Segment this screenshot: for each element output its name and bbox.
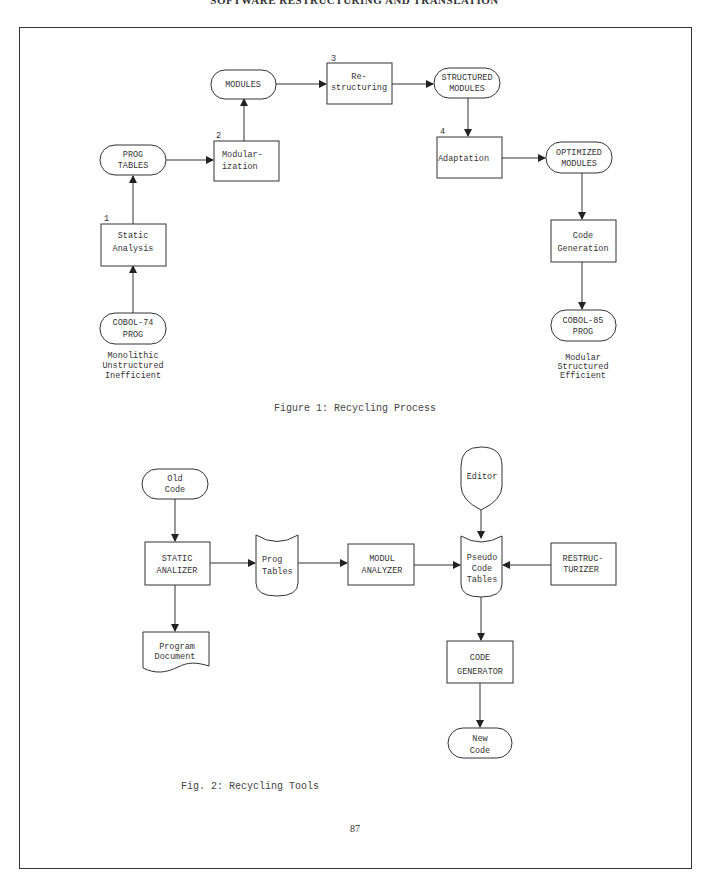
svg-text:Generation: Generation bbox=[557, 244, 608, 254]
svg-text:2: 2 bbox=[216, 131, 221, 141]
node-optimized-modules: OPTIMIZED MODULES bbox=[546, 142, 612, 173]
node-modules: MODULES bbox=[211, 70, 276, 99]
figure-1-caption: Figure 1: Recycling Process bbox=[274, 403, 436, 414]
note-right: Modular Structured Efficient bbox=[557, 353, 608, 381]
svg-text:Pseudo: Pseudo bbox=[467, 553, 498, 563]
svg-text:PROG: PROG bbox=[123, 330, 143, 340]
figures-canvas: MODULES 3 Re- structuring STRUCTURED MOD… bbox=[0, 0, 709, 872]
node-pseudo-code-tables: Pseudo Code Tables bbox=[461, 536, 502, 597]
node-restructurizer: RESTRUC- TURIZER bbox=[551, 543, 616, 585]
svg-text:New: New bbox=[472, 734, 488, 744]
svg-text:STATIC: STATIC bbox=[162, 554, 193, 564]
svg-text:Monolithic: Monolithic bbox=[107, 351, 158, 361]
svg-text:Code: Code bbox=[472, 564, 492, 574]
svg-text:MODUL: MODUL bbox=[369, 554, 395, 564]
figure-2-caption: Fig. 2: Recycling Tools bbox=[181, 781, 319, 792]
node-new-code: New Code bbox=[448, 728, 512, 758]
svg-text:Code: Code bbox=[165, 485, 185, 495]
figure-2: Old Code STATIC ANALIZER Program Documen… bbox=[142, 447, 616, 792]
node-modularization: 2 Modular- ization bbox=[214, 131, 279, 181]
svg-text:Analysis: Analysis bbox=[113, 244, 154, 254]
svg-text:Re-: Re- bbox=[351, 72, 366, 82]
node-restructuring: 3 Re- structuring bbox=[327, 54, 392, 104]
svg-text:PROG: PROG bbox=[123, 150, 143, 160]
svg-text:1: 1 bbox=[104, 214, 109, 224]
svg-text:MODULES: MODULES bbox=[225, 80, 261, 90]
svg-text:PROG: PROG bbox=[573, 327, 593, 337]
svg-text:Inefficient: Inefficient bbox=[105, 371, 161, 381]
node-prog-tables: PROG TABLES bbox=[100, 145, 166, 175]
svg-text:COBOL-85: COBOL-85 bbox=[563, 316, 604, 326]
node-structured-modules: STRUCTURED MODULES bbox=[434, 68, 500, 98]
node-cobol85-prog: COBOL-85 PROG bbox=[551, 310, 616, 341]
svg-text:Old: Old bbox=[167, 474, 182, 484]
svg-text:Unstructured: Unstructured bbox=[102, 361, 163, 371]
node-prog-tables-storage: Prog Tables bbox=[256, 535, 298, 596]
svg-text:OPTIMIZED: OPTIMIZED bbox=[556, 148, 602, 158]
svg-text:Tables: Tables bbox=[467, 575, 498, 585]
node-program-document: Program Document bbox=[143, 632, 209, 672]
svg-text:Modular-: Modular- bbox=[222, 150, 263, 160]
node-code-generator: CODE GENERATOR bbox=[447, 641, 513, 683]
svg-text:Efficient: Efficient bbox=[560, 371, 606, 381]
svg-text:COBOL-74: COBOL-74 bbox=[113, 318, 154, 328]
node-editor: Editor bbox=[461, 447, 502, 510]
svg-text:CODE: CODE bbox=[470, 653, 490, 663]
svg-text:Static: Static bbox=[118, 231, 149, 241]
svg-text:Editor: Editor bbox=[467, 472, 498, 482]
figure-1: MODULES 3 Re- structuring STRUCTURED MOD… bbox=[100, 54, 616, 414]
svg-text:Prog: Prog bbox=[262, 555, 282, 565]
page-number: 87 bbox=[350, 823, 360, 834]
svg-text:TURIZER: TURIZER bbox=[563, 565, 599, 575]
svg-text:Document: Document bbox=[155, 652, 196, 662]
svg-text:STRUCTURED: STRUCTURED bbox=[441, 73, 492, 83]
svg-text:ization: ization bbox=[222, 162, 258, 172]
svg-text:Tables: Tables bbox=[262, 567, 293, 577]
svg-text:Adaptation: Adaptation bbox=[438, 154, 489, 164]
node-cobol74-prog: COBOL-74 PROG bbox=[100, 313, 166, 344]
svg-text:GENERATOR: GENERATOR bbox=[457, 667, 503, 677]
svg-text:structuring: structuring bbox=[331, 83, 387, 93]
node-adaptation: 4 Adaptation bbox=[437, 127, 502, 178]
svg-text:4: 4 bbox=[440, 127, 445, 137]
svg-text:Program: Program bbox=[159, 642, 195, 652]
node-old-code: Old Code bbox=[142, 469, 208, 499]
svg-text:MODULES: MODULES bbox=[449, 84, 485, 94]
svg-text:ANALIZER: ANALIZER bbox=[157, 566, 198, 576]
node-static-analizer: STATIC ANALIZER bbox=[145, 542, 210, 585]
svg-text:RESTRUC-: RESTRUC- bbox=[563, 554, 604, 564]
note-left: Monolithic Unstructured Inefficient bbox=[102, 351, 163, 381]
svg-text:Code: Code bbox=[573, 231, 593, 241]
svg-text:MODULES: MODULES bbox=[561, 159, 597, 169]
svg-text:Code: Code bbox=[470, 746, 490, 756]
svg-text:ANALYZER: ANALYZER bbox=[362, 566, 403, 576]
svg-text:TABLES: TABLES bbox=[118, 161, 149, 171]
node-code-generation: Code Generation bbox=[551, 220, 616, 262]
node-modul-analyzer: MODUL ANALYZER bbox=[348, 544, 414, 585]
